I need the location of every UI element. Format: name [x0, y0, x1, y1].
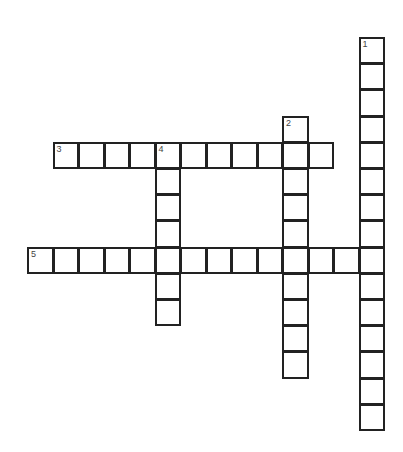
crossword-cell[interactable] [282, 220, 309, 247]
crossword-cell[interactable] [359, 299, 386, 326]
crossword-cell[interactable] [155, 194, 182, 221]
crossword-cell[interactable] [359, 378, 386, 405]
crossword-cell[interactable] [359, 116, 386, 143]
crossword-cell[interactable]: 1 [359, 37, 386, 64]
crossword-cell[interactable]: 2 [282, 116, 309, 143]
crossword-cell[interactable] [333, 247, 360, 274]
crossword-cell[interactable] [308, 142, 335, 169]
crossword-cell[interactable] [359, 142, 386, 169]
crossword-cell[interactable] [359, 247, 386, 274]
crossword-cell[interactable] [180, 142, 207, 169]
crossword-cell[interactable] [155, 247, 182, 274]
crossword-cell[interactable] [359, 194, 386, 221]
crossword-cell[interactable] [359, 273, 386, 300]
crossword-cell[interactable] [129, 247, 156, 274]
crossword-cell[interactable] [231, 247, 258, 274]
crossword-cell[interactable] [359, 220, 386, 247]
crossword-cell[interactable] [359, 63, 386, 90]
crossword-cell[interactable] [78, 247, 105, 274]
crossword-cell[interactable] [359, 404, 386, 431]
crossword-cell[interactable] [206, 142, 233, 169]
crossword-cell[interactable]: 4 [155, 142, 182, 169]
crossword-cell[interactable] [359, 168, 386, 195]
crossword-cell[interactable] [282, 325, 309, 352]
crossword-cell[interactable] [308, 247, 335, 274]
crossword-cell[interactable] [282, 273, 309, 300]
crossword-cell[interactable] [359, 325, 386, 352]
crossword-cell[interactable] [359, 89, 386, 116]
crossword-cell[interactable] [257, 247, 284, 274]
crossword-grid: 12345 [0, 0, 403, 452]
crossword-cell[interactable] [282, 247, 309, 274]
clue-number: 3 [57, 144, 62, 154]
clue-number: 2 [286, 118, 291, 128]
crossword-cell[interactable] [129, 142, 156, 169]
crossword-cell[interactable] [155, 168, 182, 195]
crossword-cell[interactable] [231, 142, 258, 169]
clue-number: 5 [31, 249, 36, 259]
crossword-cell[interactable] [282, 194, 309, 221]
clue-number: 4 [159, 144, 164, 154]
crossword-cell[interactable] [282, 351, 309, 378]
crossword-cell[interactable] [155, 220, 182, 247]
crossword-cell[interactable] [78, 142, 105, 169]
crossword-cell[interactable] [282, 142, 309, 169]
crossword-cell[interactable] [359, 351, 386, 378]
crossword-cell[interactable] [155, 273, 182, 300]
crossword-cell[interactable] [257, 142, 284, 169]
crossword-cell[interactable] [104, 142, 131, 169]
clue-number: 1 [363, 39, 368, 49]
crossword-cell[interactable] [282, 168, 309, 195]
crossword-cell[interactable] [155, 299, 182, 326]
crossword-cell[interactable] [53, 247, 80, 274]
crossword-cell[interactable] [282, 299, 309, 326]
crossword-cell[interactable] [206, 247, 233, 274]
crossword-cell[interactable] [180, 247, 207, 274]
crossword-cell[interactable] [104, 247, 131, 274]
crossword-cell[interactable]: 5 [27, 247, 54, 274]
crossword-cell[interactable]: 3 [53, 142, 80, 169]
